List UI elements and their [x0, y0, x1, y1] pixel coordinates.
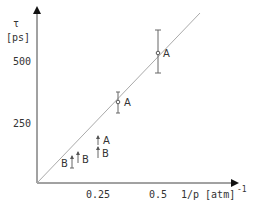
- point-label-a3: A: [163, 48, 170, 59]
- y-tick-250: 250: [13, 118, 31, 129]
- x-tick-05: 0.5: [149, 189, 167, 200]
- point-a-033: A: [116, 92, 131, 113]
- point-label-b3: B: [102, 148, 109, 159]
- y-axis-symbol: τ: [13, 18, 19, 29]
- point-b-017: B: [76, 151, 89, 165]
- point-label-a2: A: [124, 97, 131, 108]
- y-tick-500: 500: [13, 56, 31, 67]
- point-label-a1: A: [103, 135, 110, 146]
- point-a-025: A: [96, 135, 110, 146]
- point-label-b1: B: [61, 158, 68, 169]
- y-axis-unit: [ps]: [6, 32, 30, 43]
- x-axis-label: 1/p [atm]: [181, 189, 235, 200]
- point-b-014: B: [61, 155, 74, 169]
- chart: τ [ps] 500 250 0.25 0.5 1/p [atm] -1 A A…: [0, 0, 258, 210]
- x-tick-025: 0.25: [86, 189, 110, 200]
- point-a-050: A: [155, 30, 170, 73]
- x-axis-label-sup: -1: [237, 185, 247, 194]
- point-b-025: B: [96, 146, 109, 159]
- point-label-b2: B: [82, 154, 89, 165]
